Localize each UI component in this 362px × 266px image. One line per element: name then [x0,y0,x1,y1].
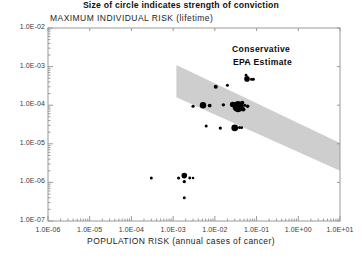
x-tick-label: 1.0E-04 [108,226,154,233]
x-tick-label: 1.0E-01 [234,226,280,233]
y-tick-label: 1.0E-05 [0,139,45,146]
y-tick-label: 1.0E-06 [0,177,45,184]
y-tick-label: 1.0E-03 [0,62,45,69]
y-tick-label: 1.0E-04 [0,100,45,107]
x-tick-label: 1.0E+00 [275,226,321,233]
y-tick-label: 1.0E-02 [0,23,45,30]
x-axis-title: POPULATION RISK (annual cases of cancer) [0,236,362,246]
x-tick-label: 1.0E-03 [150,226,196,233]
x-tick-label: 1.0E-05 [67,226,113,233]
x-tick-label: 1.0E-02 [192,226,238,233]
x-tick-label: 1.0E-06 [25,226,71,233]
x-tick-label: 1.0E+01 [317,226,362,233]
annotation-conservative: Conservative [232,44,290,54]
annotation-epa-estimate: EPA Estimate [233,57,292,67]
chart-figure: MAXIMUM INDIVIDUAL RISK (lifetime) 1.0E-… [0,0,362,266]
epa-estimate-band [176,65,340,171]
y-tick-label: 1.0E-07 [0,216,45,223]
